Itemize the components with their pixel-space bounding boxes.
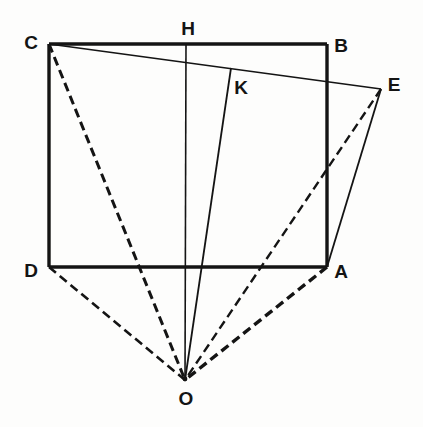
line-A-to-E xyxy=(327,89,381,267)
vertex-label-c: C xyxy=(24,33,38,52)
vertex-label-d: D xyxy=(24,261,38,280)
vertex-dots-layer xyxy=(183,377,188,382)
vertex-label-o: O xyxy=(179,389,194,408)
line-C-to-E xyxy=(49,44,381,89)
dashed-A-to-O xyxy=(185,267,327,380)
dashed-C-to-O xyxy=(49,44,185,380)
geometry-drawing xyxy=(0,0,423,427)
line-K-to-O xyxy=(185,68,231,380)
dashed-D-to-O xyxy=(49,267,185,380)
vertex-label-b: B xyxy=(334,36,348,55)
line-H-to-O xyxy=(185,44,186,380)
figure-canvas: CHBEKDAO xyxy=(0,0,423,427)
dashed-E-to-O xyxy=(185,89,381,380)
vertex-label-e: E xyxy=(388,75,401,94)
segments-layer xyxy=(49,44,381,380)
vertex-label-h: H xyxy=(181,19,195,38)
vertex-dot-O xyxy=(183,377,188,382)
vertex-label-a: A xyxy=(334,262,348,281)
vertex-label-k: K xyxy=(234,78,248,97)
